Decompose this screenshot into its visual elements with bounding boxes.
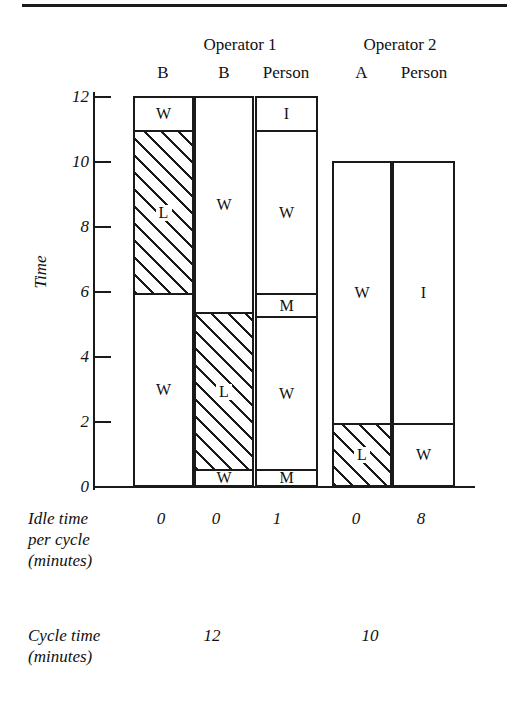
segment-op1-b1-w-top: W <box>135 98 192 130</box>
idle-value-op2-person: 8 <box>401 510 441 527</box>
segment-op1-b2-w-bottom: W <box>196 469 252 485</box>
segment-op1-b1-w-bottom: W <box>135 293 192 485</box>
segment-op1-b2-l: L <box>196 312 252 469</box>
segment-label: W <box>135 382 192 398</box>
segment-op2-person-w: W <box>394 423 453 485</box>
y-tick-8 <box>95 226 111 228</box>
column-header-op1-person: Person <box>250 63 322 82</box>
y-tick-label-4: 4 <box>55 348 89 365</box>
segment-label: L <box>216 384 232 400</box>
segment-label: W <box>196 470 252 485</box>
idle-time-label-line-3: (minutes) <box>28 550 138 571</box>
segment-label: L <box>156 205 172 221</box>
y-tick-label-2-wrap: 2 <box>45 413 89 430</box>
y-tick-label-0-wrap: 0 <box>45 478 89 495</box>
cycle-time-label-line-1: Cycle time <box>28 625 148 646</box>
segment-op1-b1-l: L <box>135 130 192 293</box>
segment-label: W <box>257 205 316 221</box>
column-header-op1-b2: B <box>195 63 253 82</box>
bar-op1-machine-b1[interactable]: W L W <box>133 96 194 487</box>
idle-time-label-line-2: per cycle <box>28 529 138 550</box>
y-tick-4 <box>95 356 111 358</box>
idle-value-op1-b2: 0 <box>196 510 236 527</box>
column-header-op2-person: Person <box>388 63 460 82</box>
segment-op1-person-w-lower: W <box>257 316 316 469</box>
y-tick-label-12: 12 <box>55 88 89 105</box>
segment-label: I <box>257 106 316 122</box>
segment-label: W <box>135 106 192 122</box>
segment-op1-person-w-upper: W <box>257 130 316 293</box>
segment-label: M <box>257 298 316 314</box>
segment-op1-person-i: I <box>257 98 316 130</box>
y-tick-label-6: 6 <box>55 283 89 300</box>
segment-label: W <box>334 285 390 301</box>
group-header-operator-2: Operator 2 <box>330 35 470 54</box>
y-tick-label-4-wrap: 4 <box>45 348 89 365</box>
segment-op2-a-l: L <box>334 423 390 485</box>
segment-op2-a-w: W <box>334 163 390 423</box>
segment-label: I <box>394 285 453 301</box>
column-header-op1-b1: B <box>133 63 193 82</box>
cycle-value-operator-2: 10 <box>350 627 390 644</box>
chart-area: Time 12 10 8 6 4 2 0 Operator 1 Operator… <box>0 0 507 500</box>
y-tick-10 <box>95 161 111 163</box>
column-header-op2-a: A <box>332 63 391 82</box>
y-tick-label-6-wrap: 6 <box>45 283 89 300</box>
bar-op1-person[interactable]: I W M W M <box>255 96 318 487</box>
bar-op2-machine-a[interactable]: W L <box>332 161 392 487</box>
y-tick-label-12-wrap: 12 <box>45 88 89 105</box>
segment-label: W <box>394 447 453 463</box>
y-tick-12 <box>95 96 111 98</box>
cycle-time-row-label: Cycle time (minutes) <box>28 625 148 667</box>
segment-op1-person-m-lower: M <box>257 469 316 485</box>
y-tick-label-2: 2 <box>55 413 89 430</box>
cycle-time-label-line-2: (minutes) <box>28 646 148 667</box>
segment-label: W <box>257 386 316 402</box>
y-tick-label-8: 8 <box>55 218 89 235</box>
bar-op2-person[interactable]: I W <box>392 161 455 487</box>
segment-label: W <box>196 197 252 213</box>
segment-label: L <box>354 447 370 463</box>
y-tick-6 <box>95 291 111 293</box>
y-tick-label-8-wrap: 8 <box>45 218 89 235</box>
idle-time-label-line-1: Idle time <box>28 508 138 529</box>
segment-op2-person-i: I <box>394 163 453 423</box>
idle-time-row-label: Idle time per cycle (minutes) <box>28 508 138 571</box>
y-tick-2 <box>95 421 111 423</box>
group-header-operator-1: Operator 1 <box>160 35 320 54</box>
y-tick-label-10-wrap: 10 <box>45 153 89 170</box>
cycle-value-operator-1: 12 <box>192 627 232 644</box>
idle-value-op1-b1: 0 <box>141 510 181 527</box>
idle-value-op1-person: 1 <box>257 510 297 527</box>
idle-value-op2-a: 0 <box>336 510 376 527</box>
y-tick-label-10: 10 <box>55 153 89 170</box>
bar-op1-machine-b2[interactable]: W L W <box>194 96 254 487</box>
segment-op1-b2-w-top: W <box>196 98 252 312</box>
segment-label: M <box>257 470 316 485</box>
y-tick-0 <box>95 486 111 488</box>
segment-op1-person-m-upper: M <box>257 293 316 316</box>
y-tick-label-0: 0 <box>55 478 89 495</box>
